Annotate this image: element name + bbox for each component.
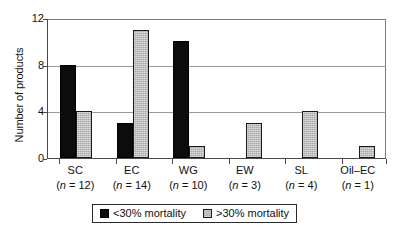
bar-ew-over30 <box>246 123 262 158</box>
legend-entry-dark: <30% mortality <box>100 208 186 219</box>
y-tick-label: 0 <box>20 153 44 164</box>
bar-sc-under30 <box>60 65 76 158</box>
y-tick-label: 12 <box>20 13 44 24</box>
legend-swatch-light-icon <box>203 209 212 218</box>
legend-label-dark: <30% mortality <box>113 208 186 219</box>
category-name: Oil–EC <box>318 164 397 177</box>
y-tick-mark <box>43 159 47 160</box>
cropped-caption-remnant <box>150 0 390 5</box>
legend: <30% mortality >30% mortality <box>92 204 297 223</box>
bar-sc-over30 <box>76 111 92 158</box>
legend-label-light: >30% mortality <box>216 208 289 219</box>
legend-swatch-dark-icon <box>100 209 109 218</box>
bar-sl-over30 <box>302 111 318 158</box>
bar-ec-over30 <box>133 30 149 158</box>
bar-wg-under30 <box>173 41 189 158</box>
bar-ec-under30 <box>117 123 133 158</box>
bar-chart-figure: Number of products 04812 SC(n = 12)EC(n … <box>0 0 397 232</box>
legend-entry-light: >30% mortality <box>203 208 289 219</box>
bar-oil-ec-over30 <box>359 146 375 158</box>
bar-wg-over30 <box>189 146 205 158</box>
y-tick-label: 8 <box>20 60 44 71</box>
category-count: (n = 1) <box>318 179 397 192</box>
y-tick-label: 4 <box>20 106 44 117</box>
plot-area <box>47 19 386 159</box>
category-label-oil-ec: Oil–EC(n = 1) <box>318 164 397 192</box>
y-axis-title: Number of products <box>13 25 25 165</box>
bars-layer <box>48 19 386 158</box>
